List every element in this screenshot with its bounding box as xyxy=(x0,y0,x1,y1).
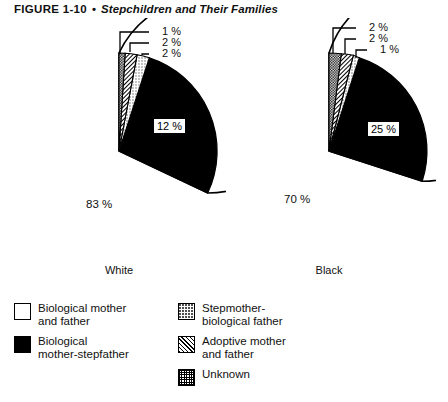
legend-item-biological-both: Biological mother and father xyxy=(14,302,184,328)
legend-label-biological-both: Biological mother and father xyxy=(38,302,126,328)
legend-swatch-hatch-icon xyxy=(178,336,195,353)
pie-black-major-label: 70 % xyxy=(284,193,310,205)
legend-item-biological-mother-stepfather: Biological mother-stepfather xyxy=(14,335,184,361)
pie-white-major-label: 83 % xyxy=(86,198,112,210)
pie-black-caption: Black xyxy=(222,264,436,276)
pie-chart-white: 1 % 2 % 2 % 12 % 83 % White xyxy=(12,18,226,268)
legend-column-right: Stepmother- biological father Adoptive m… xyxy=(178,302,428,393)
legend-label-stepmother-biological-father: Stepmother- biological father xyxy=(202,302,283,328)
legend-swatch-solid-black-icon xyxy=(14,336,31,353)
figure-number: FIGURE 1-10 xyxy=(14,3,87,15)
figure-title: FIGURE 1-10•Stepchildren and Their Famil… xyxy=(14,3,278,15)
figure-bullet-separator: • xyxy=(87,3,101,15)
legend-swatch-dots-icon xyxy=(178,303,195,320)
pie-chart-black: 2 % 2 % 1 % 25 % 70 % Black xyxy=(222,18,436,268)
chart-area: 1 % 2 % 2 % 12 % 83 % White xyxy=(0,18,448,294)
legend-label-biological-mother-stepfather: Biological mother-stepfather xyxy=(38,335,129,361)
legend-column-left: Biological mother and father Biological … xyxy=(14,302,184,368)
legend-label-adoptive-mother-and-father: Adoptive mother and father xyxy=(202,335,286,361)
legend-label-unknown: Unknown xyxy=(202,368,250,381)
legend: Biological mother and father Biological … xyxy=(10,302,440,398)
legend-swatch-solid-white-icon xyxy=(14,303,31,320)
callout-label-black-stepmother: 1 % xyxy=(380,43,399,55)
legend-item-unknown: Unknown xyxy=(178,368,428,386)
figure-name: Stepchildren and Their Families xyxy=(101,3,278,15)
callout-label-white-stepmother: 2 % xyxy=(162,47,181,59)
pie-white-highlight-label: 12 % xyxy=(153,118,186,134)
legend-swatch-check-icon xyxy=(178,369,195,386)
legend-item-adoptive-mother-and-father: Adoptive mother and father xyxy=(178,335,428,361)
pie-black-svg xyxy=(222,18,436,268)
legend-item-stepmother-biological-father: Stepmother- biological father xyxy=(178,302,428,328)
pie-black-highlight-label: 25 % xyxy=(367,121,400,137)
pie-white-svg xyxy=(12,18,226,268)
pie-white-caption: White xyxy=(12,264,226,276)
